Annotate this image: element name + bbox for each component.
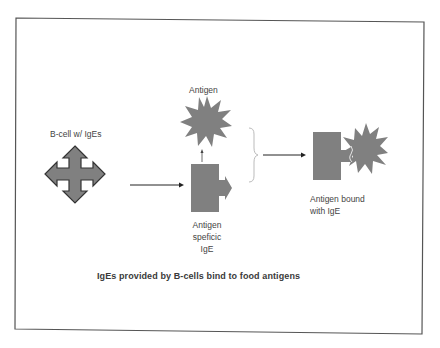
diagram-graphics	[0, 0, 440, 348]
ige-label-line-3: IgE	[189, 243, 225, 255]
antigen-label: Antigen	[189, 84, 218, 96]
ige-receptor-icon	[191, 164, 232, 212]
diagram-canvas: B-cell w/ IgEs Antigen Antigen speficic …	[0, 0, 440, 348]
antigen-star-icon	[180, 96, 232, 147]
bound-complex-icon	[313, 123, 388, 180]
ige-label: Antigen speficic IgE	[189, 219, 225, 255]
bcell-four-way-arrow-icon	[45, 146, 105, 203]
arrow-to-bound-complex	[263, 153, 306, 158]
grouping-brace	[249, 128, 258, 182]
arrow-bcell-to-ige	[130, 183, 184, 188]
diagram-caption: IgEs provided by B-cells bind to food an…	[97, 271, 300, 281]
ige-label-line-1: Antigen	[189, 219, 225, 231]
ige-label-line-2: speficic	[189, 231, 225, 243]
bound-label-line-1: Antigen bound	[310, 193, 365, 205]
bound-complex-label: Antigen bound with IgE	[310, 193, 365, 217]
bcell-label: B-cell w/ IgEs	[50, 128, 102, 140]
arrow-ige-to-antigen	[201, 149, 204, 162]
bound-label-line-2: with IgE	[310, 205, 365, 217]
